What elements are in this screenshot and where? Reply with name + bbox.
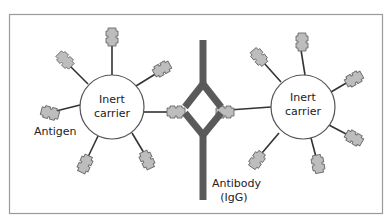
left-carrier-label-2: carrier: [94, 107, 130, 120]
right-carrier-label-1: Inert: [290, 91, 317, 104]
left-carrier-label-1: Inert: [99, 93, 126, 106]
antibody-label-2: (IgG): [220, 191, 247, 204]
right-carrier-label-2: carrier: [285, 105, 321, 118]
antibody-label-1: Antibody: [212, 177, 262, 190]
antigen-label: Antigen: [34, 125, 77, 138]
antibody-antigen-diagram: Inert carrier Inert carrier Antigen Anti…: [0, 0, 388, 219]
